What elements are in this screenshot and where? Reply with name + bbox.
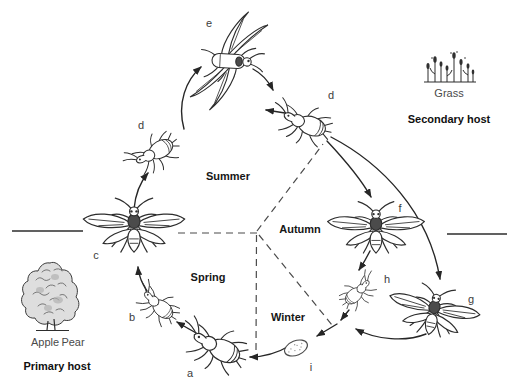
arrow-h-to-junction	[341, 310, 349, 320]
apple-pear-tree-icon	[22, 262, 79, 330]
label-secondary-host: Secondary host	[408, 113, 491, 125]
label-season-summer: Summer	[206, 170, 251, 182]
divider-summer-autumn	[257, 144, 323, 231]
label-primary-host: Primary host	[23, 360, 91, 372]
label-stage-d-left: d	[138, 119, 144, 131]
arrow-d-right-to-e	[266, 110, 285, 113]
arrow-c-to-d-left	[134, 173, 148, 209]
label-stage-i: i	[310, 361, 312, 373]
stage-g-winged-aphid	[384, 277, 484, 344]
label-apple: Apple	[31, 336, 59, 348]
arrow-g-to-h	[356, 329, 426, 339]
label-season-winter: Winter	[271, 311, 306, 323]
arrow-d-right-to-g	[331, 137, 440, 279]
label-stage-c: c	[93, 249, 99, 261]
arrow-f-to-h	[359, 251, 370, 270]
label-stage-e: e	[206, 17, 212, 29]
figure-frame: a b c d e d f g h i Summer Autumn Spring…	[0, 0, 508, 383]
label-season-spring: Spring	[191, 271, 226, 283]
stage-d-left-wingless-aphid	[119, 125, 187, 185]
label-stage-h: h	[384, 273, 390, 285]
label-season-autumn: Autumn	[279, 223, 321, 235]
arrow-d-right-to-f	[327, 141, 371, 197]
life-cycle-diagram: a b c d e d f g h i Summer Autumn Spring…	[0, 0, 508, 383]
label-stage-f: f	[398, 202, 402, 214]
grass-icon	[424, 51, 476, 82]
stage-d-right-wingless-aphid	[265, 93, 338, 152]
season-dividers	[178, 144, 332, 351]
label-pear: Pear	[61, 336, 85, 348]
stage-a-wingless-aphid	[171, 311, 255, 383]
label-stage-b: b	[129, 311, 135, 323]
label-stage-g: g	[468, 293, 474, 305]
stage-h-wingless-aphid	[334, 266, 386, 317]
stage-f-winged-aphid	[328, 202, 425, 253]
label-grass: Grass	[434, 87, 464, 99]
divider-spring-winter	[256, 235, 257, 351]
arrow-e-to-d-right	[253, 69, 273, 90]
stage-i-egg	[282, 337, 310, 359]
arrow-d-left-to-e	[182, 67, 201, 129]
stage-b-wingless-aphid	[125, 275, 185, 333]
arrow-junction-to-egg	[317, 324, 337, 336]
stage-e-flying-winged-aphid	[189, 9, 268, 113]
label-stage-a: a	[187, 367, 194, 379]
label-stage-d-right: d	[328, 89, 334, 101]
